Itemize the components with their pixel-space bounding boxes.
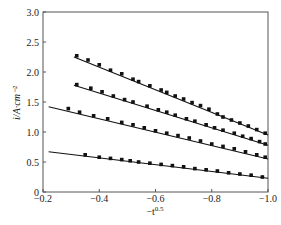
data-point bbox=[238, 121, 242, 125]
data-point bbox=[263, 155, 267, 159]
data-point bbox=[165, 110, 169, 114]
data-point bbox=[137, 160, 141, 164]
data-point bbox=[249, 137, 253, 141]
data-point bbox=[109, 157, 113, 161]
data-point bbox=[216, 112, 220, 116]
data-point bbox=[232, 147, 236, 151]
data-point bbox=[165, 131, 169, 135]
data-point bbox=[221, 115, 225, 119]
data-point bbox=[241, 134, 245, 138]
data-point bbox=[148, 161, 152, 165]
data-point bbox=[216, 169, 220, 173]
data-point bbox=[193, 167, 197, 171]
y-tick-label: 1.5 bbox=[27, 97, 40, 108]
data-point bbox=[255, 153, 259, 157]
data-point bbox=[204, 168, 208, 172]
data-point bbox=[120, 158, 124, 162]
data-point bbox=[221, 128, 225, 132]
data-point bbox=[263, 142, 267, 146]
data-point bbox=[173, 113, 177, 117]
data-point bbox=[97, 63, 101, 67]
x-axis-ticks: −0.2−0.4−0.6−0.8−1.0 bbox=[34, 189, 277, 204]
x-tick-label: −0.2 bbox=[34, 193, 52, 204]
data-point bbox=[261, 175, 265, 179]
data-point bbox=[131, 100, 135, 104]
data-point bbox=[120, 72, 124, 76]
y-axis-label: i/A·cm⁻² bbox=[11, 85, 22, 120]
data-point bbox=[258, 140, 262, 144]
data-point bbox=[263, 131, 267, 135]
data-point bbox=[137, 80, 141, 84]
data-point bbox=[227, 171, 231, 175]
data-point bbox=[123, 98, 127, 102]
data-point bbox=[112, 94, 116, 98]
x-tick-label: −0.6 bbox=[146, 193, 164, 204]
y-tick-label: 3.0 bbox=[27, 7, 40, 18]
data-point bbox=[92, 114, 96, 118]
data-point bbox=[249, 173, 253, 177]
data-point bbox=[185, 117, 189, 121]
data-point bbox=[199, 104, 203, 108]
data-point bbox=[210, 142, 214, 146]
data-point bbox=[204, 123, 208, 127]
data-point bbox=[89, 86, 93, 90]
chart: 00.51.01.52.02.53.0 −0.2−0.4−0.6−0.8−1.0… bbox=[0, 0, 281, 225]
data-point bbox=[78, 110, 82, 114]
data-point bbox=[86, 58, 90, 62]
data-point bbox=[221, 145, 225, 149]
x-axis-label-base: −t bbox=[146, 206, 155, 217]
x-axis-label: −t0.5 bbox=[146, 205, 164, 217]
series-4 bbox=[49, 152, 268, 179]
y-tick-label: 1.0 bbox=[27, 127, 40, 138]
x-tick-label: −0.8 bbox=[203, 193, 221, 204]
data-point bbox=[145, 104, 149, 108]
data-series bbox=[49, 54, 268, 179]
data-point bbox=[97, 155, 101, 159]
data-point bbox=[190, 101, 194, 105]
data-point bbox=[173, 94, 177, 98]
data-point bbox=[182, 165, 186, 169]
data-point bbox=[159, 163, 163, 167]
data-point bbox=[67, 107, 71, 111]
y-tick-label: 2.0 bbox=[27, 67, 40, 78]
x-tick-label: −0.4 bbox=[90, 193, 108, 204]
data-point bbox=[199, 139, 203, 143]
data-point bbox=[247, 124, 251, 128]
data-point bbox=[255, 128, 259, 132]
data-point bbox=[213, 126, 217, 130]
fit-line bbox=[49, 152, 268, 178]
data-point bbox=[171, 164, 175, 168]
data-point bbox=[75, 83, 79, 87]
data-point bbox=[109, 68, 113, 72]
data-point bbox=[165, 91, 169, 95]
data-point bbox=[154, 129, 158, 133]
data-point bbox=[131, 77, 135, 81]
data-point bbox=[244, 150, 248, 154]
data-point bbox=[128, 159, 132, 163]
data-point bbox=[157, 108, 161, 112]
y-tick-label: 0.5 bbox=[27, 157, 40, 168]
y-tick-label: 2.5 bbox=[27, 37, 40, 48]
data-point bbox=[120, 121, 124, 125]
x-axis-label-sup: 0.5 bbox=[155, 205, 164, 213]
data-point bbox=[238, 172, 242, 176]
data-point bbox=[207, 107, 211, 111]
data-point bbox=[75, 54, 79, 58]
data-point bbox=[83, 153, 87, 157]
data-point bbox=[106, 117, 110, 121]
data-point bbox=[176, 134, 180, 138]
data-point bbox=[131, 123, 135, 127]
data-point bbox=[100, 90, 104, 94]
data-point bbox=[230, 118, 234, 122]
data-point bbox=[182, 97, 186, 101]
data-point bbox=[148, 84, 152, 88]
data-point bbox=[187, 136, 191, 140]
data-point bbox=[159, 88, 163, 92]
x-tick-label: −1.0 bbox=[259, 193, 277, 204]
data-point bbox=[193, 119, 197, 123]
data-point bbox=[232, 131, 236, 135]
data-point bbox=[142, 126, 146, 130]
